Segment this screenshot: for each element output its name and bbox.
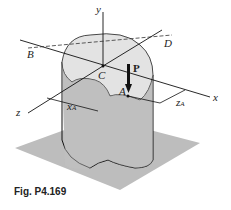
point-d-label: D	[164, 38, 172, 49]
z-axis-label: z	[16, 107, 20, 118]
figure-caption: Fig. P4.169	[14, 186, 66, 197]
load-arrow	[127, 64, 130, 86]
point-b-label: B	[27, 49, 34, 60]
point-c-label: C	[98, 70, 105, 81]
load-p-label: P	[133, 63, 140, 74]
y-axis-label: y	[96, 4, 101, 15]
x-axis-label: x	[213, 92, 218, 103]
zA-label: zA	[176, 97, 185, 108]
xA-label: xA	[67, 101, 76, 112]
figure-diagram	[0, 0, 231, 210]
point-a-label: A	[119, 86, 126, 97]
